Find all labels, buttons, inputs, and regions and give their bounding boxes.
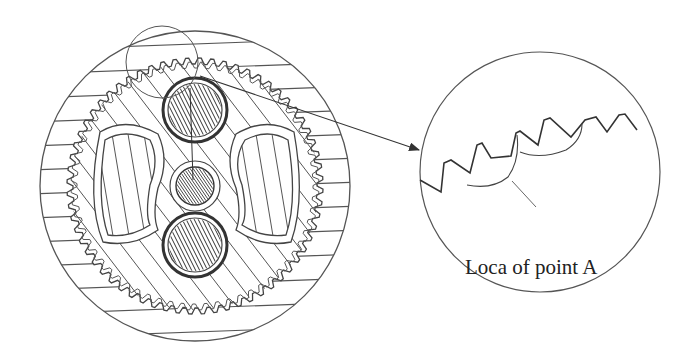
- hatch-line: [0, 40, 40, 340]
- hatch-line: [30, 350, 360, 362]
- hatch-line: [0, 40, 18, 340]
- hatch-line: [30, 14, 360, 26]
- detail-view: Loca of point A: [420, 52, 660, 292]
- locus-label: Loca of point A: [465, 255, 598, 279]
- gear-diagram: Loca of point A: [0, 0, 699, 364]
